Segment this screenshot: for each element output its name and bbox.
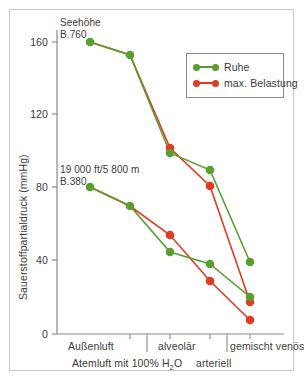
annotation-seehoehe-line1: Seehöhe	[60, 17, 101, 29]
x-label-atemluft-prefix: Atemluft mit 100% H	[72, 357, 170, 369]
chart-legend: Ruhe max. Belastung	[186, 53, 284, 98]
y-tick-label-0: 0	[18, 328, 48, 340]
annotation-seehoehe: Seehöhe B.760	[60, 17, 101, 41]
y-tick-label-160: 160	[18, 36, 48, 48]
legend-label-ruhe: Ruhe	[224, 61, 250, 73]
y-axis-title: Sauerstoffpartialdruck (mmHg)	[17, 154, 29, 300]
legend-item-ruhe[interactable]: Ruhe	[193, 59, 277, 75]
y-tick-label-120: 120	[18, 108, 48, 120]
x-tick-marks	[130, 334, 250, 339]
x-label-arteriell: arteriell	[196, 357, 231, 369]
x-label-atemluft: Atemluft mit 100% H2O	[72, 357, 182, 372]
figure-container: 160 120 80 40 0 Sauerstoffpartialdruck (…	[0, 0, 304, 381]
annotation-altitude-line1: 19 000 ft/5 800 m	[60, 164, 140, 176]
legend-swatch-ruhe	[193, 61, 219, 73]
x-label-gemischt-venoes: gemischt venös	[230, 340, 304, 352]
y-tick-marks	[52, 42, 57, 334]
legend-swatch-belastung	[193, 77, 219, 89]
x-label-atemluft-suffix: O	[174, 357, 182, 369]
legend-item-belastung[interactable]: max. Belastung	[193, 75, 277, 91]
series-ruhe-altitude-line	[90, 187, 250, 297]
annotation-altitude-line2: B.380	[60, 176, 140, 188]
annotation-altitude: 19 000 ft/5 800 m B.380	[60, 164, 140, 188]
annotation-seehoehe-line2: B.760	[60, 29, 101, 41]
legend-label-belastung: max. Belastung	[224, 77, 298, 89]
x-label-alveolaer: alveolär	[158, 340, 196, 352]
x-label-aussenluft: Außenluft	[68, 340, 114, 352]
